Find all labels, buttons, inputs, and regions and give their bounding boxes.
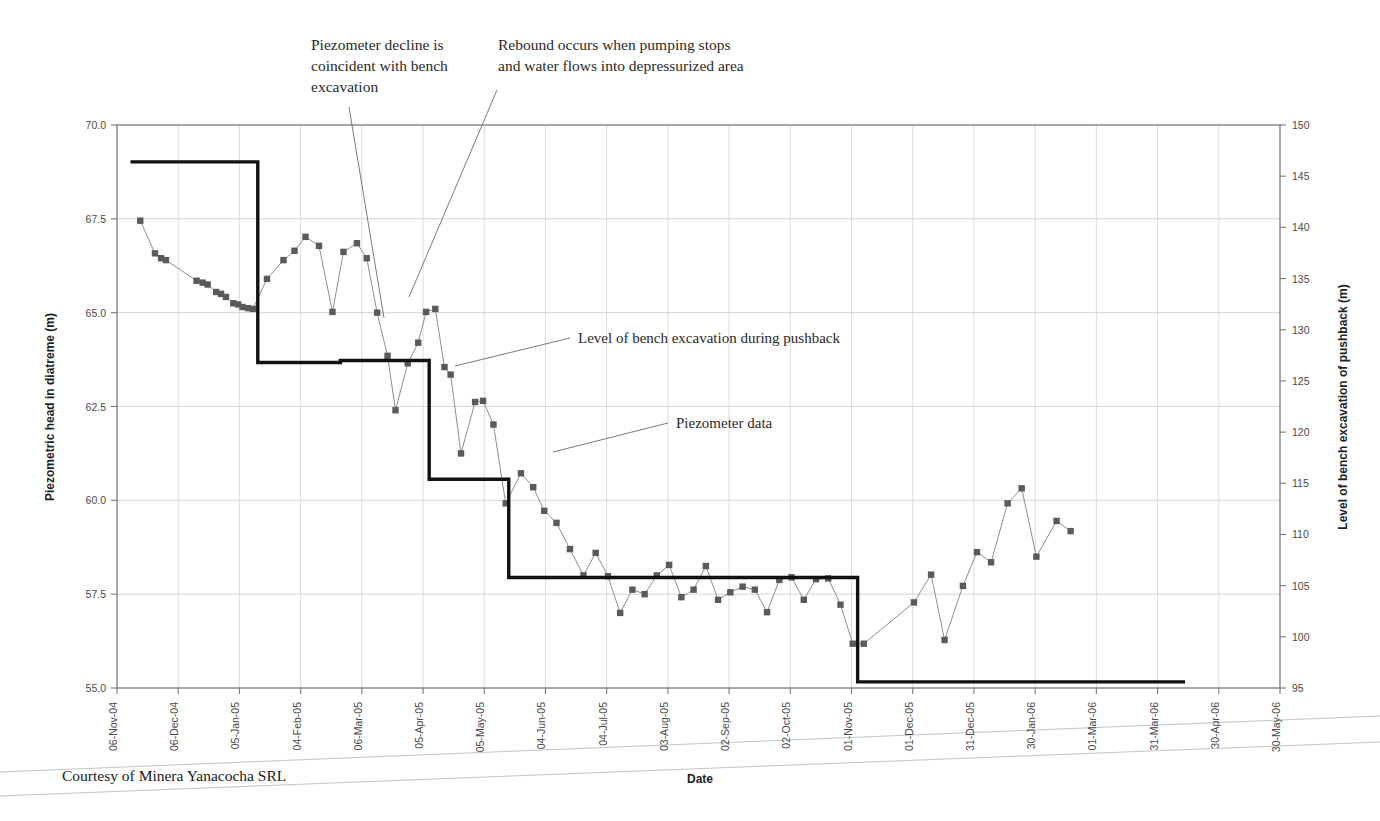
- grid-lines: [117, 125, 1280, 688]
- y2-tick-label: 100: [1292, 631, 1310, 643]
- data-series-layer: [130, 162, 1185, 682]
- y2-tick-label: 115: [1292, 477, 1309, 489]
- piezometer-data-point: [384, 353, 390, 359]
- bench-excavation-step-line: [130, 162, 1185, 682]
- y-tick-label: 62.5: [86, 401, 107, 413]
- bench-series-label: Level of bench excavation during pushbac…: [578, 330, 840, 346]
- y2-tick-label: 120: [1292, 426, 1310, 438]
- chart-canvas: 55.057.560.062.565.067.570.0 95100105110…: [0, 0, 1380, 821]
- y-axis-right-title: Level of bench excavation of pushback (m…: [1336, 284, 1350, 529]
- piezometer-data-point: [204, 281, 210, 287]
- x-tick-label: 31-Dec-05: [964, 702, 976, 751]
- piezometer-data-point: [458, 450, 464, 456]
- x-axis-title: Date: [687, 772, 713, 786]
- piezometer-data-point: [764, 609, 770, 615]
- x-tick-label: 05-Apr-05: [413, 702, 425, 749]
- piezometer-data-point: [541, 508, 547, 514]
- y2-tick-label: 105: [1292, 580, 1310, 592]
- y-axis-right-tick-labels: 95100105110115120125130135140145150: [1292, 119, 1310, 694]
- callout-right: Rebound occurs when pumping stops and wa…: [498, 36, 744, 74]
- piezometer-data-point: [837, 601, 843, 607]
- annotation-leader-lines: [349, 90, 668, 452]
- piezometer-data-point: [553, 520, 559, 526]
- piezometer-data-point: [739, 583, 745, 589]
- piezometer-data-point: [316, 243, 322, 249]
- x-tick-label: 02-Oct-05: [780, 702, 792, 749]
- piezometer-data-point: [163, 257, 169, 263]
- y2-tick-label: 125: [1292, 375, 1310, 387]
- piezometer-data-point: [988, 559, 994, 565]
- x-tick-label: 30-May-06: [1270, 702, 1282, 752]
- x-tick-label: 05-May-05: [474, 702, 486, 752]
- piezometer-data-point: [441, 364, 447, 370]
- piezometer-data-point: [518, 470, 524, 476]
- x-tick-label: 31-Mar-06: [1148, 702, 1160, 751]
- x-tick-label: 06-Mar-05: [352, 702, 364, 751]
- callout-right-line-2: and water flows into depressurized area: [498, 57, 744, 74]
- piezometer-data-point: [250, 306, 256, 312]
- y-axis-left-title: Piezometric head in diatreme (m): [43, 313, 57, 501]
- piezometer-data-point: [423, 309, 429, 315]
- x-tick-label: 06-Dec-04: [168, 702, 180, 751]
- piezometer-data-point: [928, 571, 934, 577]
- piezometer-data-point: [592, 550, 598, 556]
- piezometer-data-point: [490, 421, 496, 427]
- x-tick-label: 04-Jun-05: [535, 702, 547, 749]
- figure-caption: Courtesy of Minera Yanacocha SRL: [62, 767, 286, 784]
- y2-tick-label: 145: [1292, 170, 1310, 182]
- callout-right-line-1: Rebound occurs when pumping stops: [498, 36, 730, 53]
- y-tick-label: 67.5: [86, 213, 107, 225]
- piezometer-data-point: [1018, 485, 1024, 491]
- y-tick-label: 70.0: [86, 119, 107, 131]
- callout-left-line-3: excavation: [311, 78, 378, 95]
- piezometer-data-point: [974, 549, 980, 555]
- piezometer-data-point: [678, 594, 684, 600]
- y2-tick-label: 110: [1292, 528, 1309, 540]
- piezometer-data-point: [850, 641, 856, 647]
- chart-figure: 55.057.560.062.565.067.570.0 95100105110…: [0, 0, 1380, 821]
- x-tick-label: 05-Jan-05: [229, 702, 241, 749]
- y-tick-label: 57.5: [86, 588, 107, 600]
- piezometer-data-point: [340, 249, 346, 255]
- piezometer-data-point: [641, 591, 647, 597]
- y-axis-left-tick-labels: 55.057.560.062.565.067.570.0: [86, 119, 107, 694]
- piezometer-data-point: [1053, 518, 1059, 524]
- callout-left-line-2: coincident with bench: [311, 57, 448, 74]
- y2-tick-label: 135: [1292, 273, 1310, 285]
- piezometer-data-point: [374, 309, 380, 315]
- piezometer-data-point: [666, 562, 672, 568]
- x-tick-label: 30-Jan-06: [1025, 702, 1037, 749]
- x-tick-label: 02-Sep-05: [719, 702, 731, 751]
- piezometer-data-point: [530, 484, 536, 490]
- x-tick-label: 06-Nov-04: [107, 702, 119, 751]
- piezometer-data-point: [354, 240, 360, 246]
- piezometer-data-point: [302, 234, 308, 240]
- piezometer-data-point: [960, 583, 966, 589]
- piezometer-data-point: [264, 276, 270, 282]
- piezometer-data-point: [392, 407, 398, 413]
- callout-left-line-1: Piezometer decline is: [311, 36, 444, 53]
- y2-tick-label: 95: [1292, 682, 1304, 694]
- piezometer-data-point: [715, 597, 721, 603]
- piezometer-data-point: [364, 255, 370, 261]
- piezometer-data-point: [472, 399, 478, 405]
- x-tick-label: 04-Jul-05: [597, 702, 609, 746]
- piezometer-data-point: [329, 309, 335, 315]
- piezometer-data-point: [223, 294, 229, 300]
- piezometer-data-point: [137, 218, 143, 224]
- piezometer-data-point: [941, 637, 947, 643]
- y-tick-label: 60.0: [86, 494, 107, 506]
- y2-tick-label: 140: [1292, 221, 1310, 233]
- y2-tick-label: 150: [1292, 119, 1310, 131]
- piezometer-data-point: [727, 589, 733, 595]
- x-tick-label: 04-Feb-05: [291, 702, 303, 751]
- callout-left: Piezometer decline is coincident with be…: [311, 36, 448, 95]
- piezometer-data-point: [567, 546, 573, 552]
- piezometer-data-point: [629, 586, 635, 592]
- y2-tick-label: 130: [1292, 324, 1310, 336]
- piezometer-data-point: [415, 339, 421, 345]
- y-tick-label: 55.0: [86, 682, 107, 694]
- x-tick-label: 01-Nov-05: [842, 702, 854, 751]
- piezometer-data-point: [911, 599, 917, 605]
- piezometer-data-point: [1033, 553, 1039, 559]
